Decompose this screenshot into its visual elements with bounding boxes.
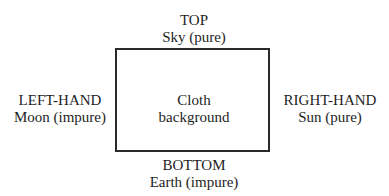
top-subtitle: Sky (pure) [144, 29, 244, 46]
center-label: Cloth background [144, 92, 244, 126]
right-subtitle: Sun (pure) [274, 109, 386, 126]
right-label: RIGHT-HAND Sun (pure) [274, 92, 386, 126]
right-title: RIGHT-HAND [274, 92, 386, 109]
center-line1: Cloth [144, 92, 244, 109]
top-title: TOP [144, 12, 244, 29]
bottom-label: BOTTOM Earth (impure) [134, 157, 254, 191]
left-label: LEFT-HAND Moon (impure) [10, 92, 110, 126]
top-label: TOP Sky (pure) [144, 12, 244, 46]
center-line2: background [144, 109, 244, 126]
bottom-subtitle: Earth (impure) [134, 174, 254, 191]
left-subtitle: Moon (impure) [10, 109, 110, 126]
left-title: LEFT-HAND [10, 92, 110, 109]
bottom-title: BOTTOM [134, 157, 254, 174]
